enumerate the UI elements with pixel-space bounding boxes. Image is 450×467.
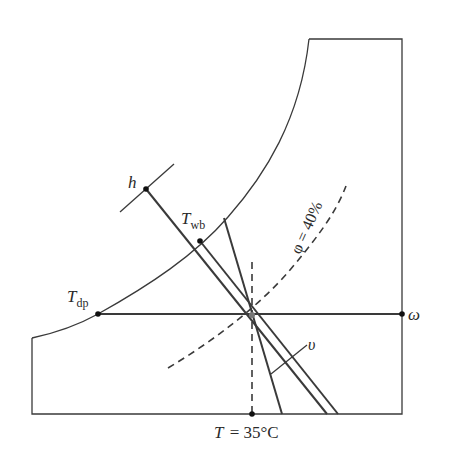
specific-volume-label: υ — [308, 336, 315, 353]
wet-bulb-point — [197, 238, 203, 244]
wet-bulb-label: Twb — [181, 209, 205, 232]
wet-bulb-line — [200, 241, 338, 414]
chart-outline — [32, 39, 402, 414]
dew-point-label: Tdp — [67, 287, 88, 310]
temperature-point — [249, 411, 255, 417]
enthalpy-label: h — [128, 173, 137, 192]
psychrometric-diagram: h Twb Tdp φ = 40% ω υ T = 35°C — [0, 0, 450, 467]
relative-humidity-label: φ = 40% — [287, 199, 326, 257]
enthalpy-point — [143, 186, 149, 192]
state-point — [249, 312, 255, 318]
omega-point — [399, 311, 405, 317]
temperature-label: T = 35°C — [214, 423, 279, 442]
omega-label: ω — [408, 305, 420, 324]
dew-point — [95, 311, 101, 317]
